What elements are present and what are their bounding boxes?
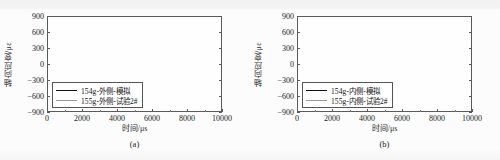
y-tick-mark <box>219 96 222 97</box>
x-axis-title-b: 时间/μs <box>297 122 472 133</box>
y-tick-mark <box>297 48 300 49</box>
x-minor-tick-mark <box>65 110 66 112</box>
legend-label-exp-a: 155g-外侧-试验2# <box>81 95 138 106</box>
legend-item-exp-a: 155g-外侧-试验2# <box>56 95 138 105</box>
legend-item-sim-a: 154g-外侧-模拟 <box>56 85 138 95</box>
y-tick-label: 0 <box>290 60 297 69</box>
y-tick-label: −300 <box>277 76 297 85</box>
y-axis-title-a: 轴向应变/με <box>1 18 15 110</box>
y-tick-label: 600 <box>282 28 297 37</box>
x-tick-mark <box>367 109 368 112</box>
plot-area-a: −900−600−3000300600900020004000600080001… <box>47 16 222 112</box>
x-tick-mark <box>47 109 48 112</box>
x-minor-tick-mark <box>455 110 456 112</box>
x-minor-tick-mark <box>100 110 101 112</box>
chart-panel-a: 轴向应变/με −900−600−30003006009000200040006… <box>0 0 250 160</box>
y-tick-mark <box>47 16 50 17</box>
y-tick-mark <box>47 80 50 81</box>
legend-item-sim-b: 154g-内侧-模拟 <box>306 85 388 95</box>
legend-item-exp-b: 155g-内侧-试验2# <box>306 95 388 105</box>
x-minor-tick-mark <box>205 110 206 112</box>
y-tick-mark <box>219 80 222 81</box>
y-tick-mark <box>219 16 222 17</box>
y-tick-mark <box>297 16 300 17</box>
y-tick-mark <box>47 48 50 49</box>
x-tick-mark <box>222 109 223 112</box>
x-axis-title-a: 时间/μs <box>47 122 222 133</box>
y-tick-mark <box>297 32 300 33</box>
panel-caption-b: (b) <box>297 139 472 149</box>
y-tick-mark <box>297 80 300 81</box>
y-tick-mark <box>219 64 222 65</box>
y-tick-label: −600 <box>27 92 47 101</box>
y-tick-mark <box>297 96 300 97</box>
legend-line-exp-icon <box>306 100 327 101</box>
x-tick-mark <box>297 109 298 112</box>
plot-area-b: −900−600−3000300600900020004000600080001… <box>297 16 472 112</box>
panel-caption-a: (a) <box>47 139 222 149</box>
legend-line-sim-icon <box>56 90 77 91</box>
x-tick-mark <box>332 109 333 112</box>
x-tick-mark <box>82 109 83 112</box>
legend-line-sim-icon <box>306 90 327 91</box>
x-minor-tick-mark <box>170 110 171 112</box>
x-minor-tick-mark <box>350 110 351 112</box>
y-tick-mark <box>297 64 300 65</box>
y-tick-mark <box>219 32 222 33</box>
y-tick-label: 0 <box>40 60 47 69</box>
legend-a: 154g-外侧-模拟 155g-外侧-试验2# <box>52 82 143 108</box>
y-tick-label: 300 <box>32 44 47 53</box>
y-tick-label: 600 <box>32 28 47 37</box>
y-tick-mark <box>47 64 50 65</box>
y-tick-label: 900 <box>32 12 47 21</box>
y-tick-label: 300 <box>282 44 297 53</box>
figure-sheet: 轴向应变/με −900−600−30003006009000200040006… <box>0 0 500 160</box>
y-tick-mark <box>469 16 472 17</box>
y-tick-mark <box>469 32 472 33</box>
x-minor-tick-mark <box>135 110 136 112</box>
x-tick-mark <box>437 109 438 112</box>
legend-b: 154g-内侧-模拟 155g-内侧-试验2# <box>302 82 393 108</box>
x-minor-tick-mark <box>420 110 421 112</box>
y-tick-label: −300 <box>27 76 47 85</box>
y-tick-mark <box>469 64 472 65</box>
x-tick-mark <box>472 109 473 112</box>
y-tick-mark <box>47 96 50 97</box>
x-minor-tick-mark <box>385 110 386 112</box>
x-tick-mark <box>187 109 188 112</box>
legend-label-exp-b: 155g-内侧-试验2# <box>331 95 388 106</box>
x-minor-tick-mark <box>315 110 316 112</box>
x-tick-mark <box>402 109 403 112</box>
y-tick-label: −600 <box>277 92 297 101</box>
y-tick-mark <box>219 48 222 49</box>
y-tick-mark <box>469 96 472 97</box>
legend-line-exp-icon <box>56 100 77 101</box>
x-tick-mark <box>152 109 153 112</box>
y-tick-mark <box>469 48 472 49</box>
chart-panel-b: 轴向应变/με −900−600−30003006009000200040006… <box>250 0 500 160</box>
x-tick-mark <box>117 109 118 112</box>
y-tick-label: 900 <box>282 12 297 21</box>
y-tick-mark <box>47 32 50 33</box>
y-tick-mark <box>469 80 472 81</box>
y-axis-title-b: 轴向应变/με <box>251 18 265 110</box>
